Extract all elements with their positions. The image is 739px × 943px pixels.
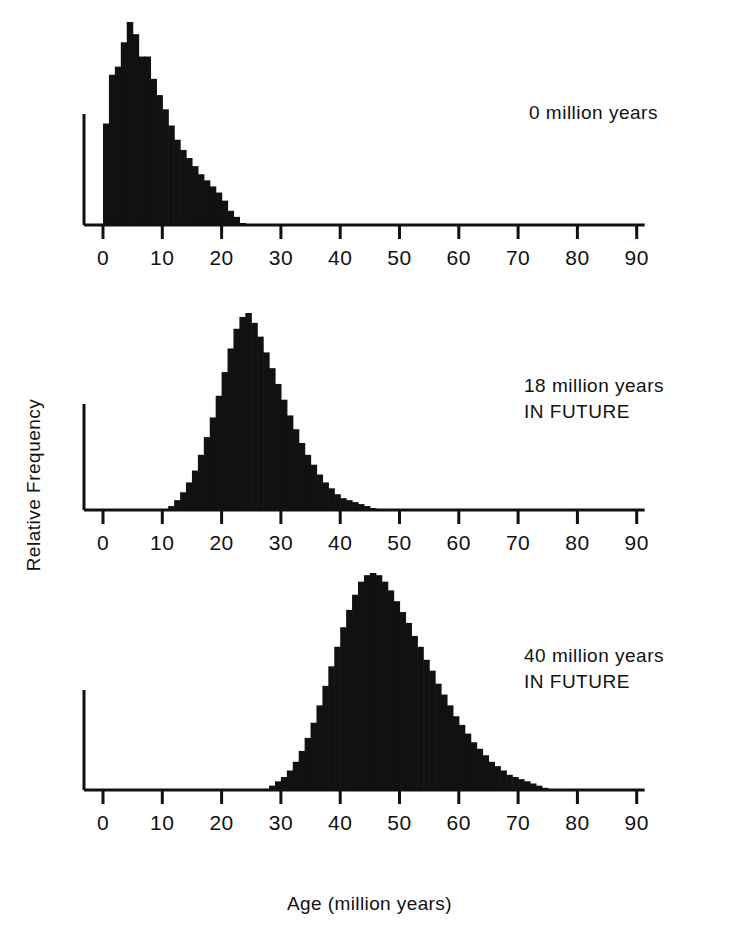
histogram-bar	[228, 348, 235, 510]
histogram-bar	[311, 723, 318, 790]
histogram-bar	[322, 686, 329, 790]
histogram-bar	[162, 109, 169, 225]
histogram-bar	[435, 684, 442, 790]
histogram-bar	[269, 368, 276, 510]
histogram-bar	[198, 455, 205, 510]
histogram-bar	[340, 498, 347, 510]
x-axis-tick-label: 20	[209, 811, 233, 834]
histogram-bar	[156, 95, 163, 225]
x-axis-tick-label: 10	[150, 246, 174, 269]
histogram-bar	[186, 482, 193, 510]
histogram-bar	[483, 755, 490, 790]
histogram-bar	[121, 42, 128, 225]
histogram-bar	[103, 124, 110, 226]
histogram-bar	[222, 201, 229, 225]
histogram-bar	[400, 612, 407, 790]
annotation-line-2: IN FUTURE	[524, 401, 630, 422]
histogram-bar	[192, 166, 199, 225]
histogram-bar	[441, 695, 448, 790]
histogram-bar	[299, 751, 306, 790]
x-axis-title: Age (million years)	[0, 893, 739, 915]
histogram-bar	[204, 437, 211, 510]
histogram-bar	[376, 575, 383, 790]
histogram-bar	[311, 465, 318, 510]
histogram-bar	[471, 742, 478, 790]
histogram-panel-1: 0102030405060708090	[0, 285, 739, 565]
x-axis-tick-label: 40	[328, 531, 352, 554]
histogram-bar	[305, 455, 312, 510]
histogram-bar	[459, 725, 466, 790]
histogram-bar	[180, 492, 187, 510]
histogram-bar	[281, 777, 288, 790]
x-axis-tick-label: 80	[565, 811, 589, 834]
histogram-bar	[180, 150, 187, 225]
annotation-line-2: IN FUTURE	[524, 671, 630, 692]
histogram-bar	[186, 158, 193, 225]
histogram-bar	[299, 443, 306, 510]
histogram-bar	[174, 140, 181, 225]
histogram-bar	[411, 636, 418, 790]
histogram-bar	[287, 415, 294, 510]
histogram-bar	[394, 601, 401, 790]
histogram-bar	[115, 67, 122, 225]
histogram-bar	[109, 75, 116, 225]
histogram-bar	[133, 34, 140, 225]
x-axis-tick-label: 60	[447, 811, 471, 834]
histogram-bar	[417, 647, 424, 790]
histogram-bar	[287, 770, 294, 790]
x-axis-tick-label: 50	[387, 531, 411, 554]
x-axis-tick-label: 10	[150, 531, 174, 554]
x-axis-tick-label: 50	[387, 246, 411, 269]
histogram-bar	[364, 575, 371, 790]
panel-18-million-years: 0102030405060708090	[0, 285, 739, 565]
histogram-bar	[334, 494, 341, 510]
histogram-bar	[518, 779, 525, 790]
histogram-bar	[494, 766, 501, 790]
x-axis-tick-label: 20	[209, 531, 233, 554]
histogram-bar	[210, 417, 217, 510]
x-axis-tick-label: 0	[97, 246, 109, 269]
histogram-bar	[423, 660, 430, 790]
x-axis-tick-label: 90	[625, 246, 649, 269]
histogram-bar	[275, 384, 282, 510]
x-axis-tick-label: 70	[506, 811, 530, 834]
x-axis-tick-label: 70	[506, 531, 530, 554]
histogram-bar	[127, 22, 134, 225]
x-axis-tick-label: 40	[328, 246, 352, 269]
histogram-bar	[506, 775, 513, 790]
histogram-bar	[251, 323, 258, 510]
histogram-panel-2: 0102030405060708090	[0, 565, 739, 865]
histogram-bar	[388, 590, 395, 790]
histogram-bar	[328, 666, 335, 790]
annotation-line-1: 40 million years	[524, 645, 664, 666]
histogram-bar	[257, 337, 264, 510]
histogram-bar	[233, 329, 240, 510]
histogram-bar	[210, 186, 217, 225]
x-axis-tick-label: 10	[150, 811, 174, 834]
panel-40-million-years: 0102030405060708090	[0, 565, 739, 865]
histogram-bar	[145, 57, 152, 225]
x-axis-tick-label: 70	[506, 246, 530, 269]
histogram-bar	[204, 180, 211, 225]
histogram-bar	[139, 57, 146, 225]
histogram-bar	[316, 705, 323, 790]
histogram-bar	[293, 762, 300, 790]
histogram-bar	[222, 372, 229, 510]
histogram-bar	[370, 573, 377, 790]
histogram-bar	[263, 352, 270, 510]
histogram-bars	[168, 313, 376, 510]
annotation-panel-1: 18 million yearsIN FUTURE	[524, 373, 664, 424]
x-axis-tick-label: 20	[209, 246, 233, 269]
histogram-bar	[382, 582, 389, 790]
x-axis-tick-label: 90	[625, 811, 649, 834]
histogram-bar	[500, 770, 507, 790]
histogram-bar	[245, 313, 252, 510]
histogram-bar	[216, 396, 223, 510]
histogram-bars	[103, 22, 246, 225]
histogram-bar	[239, 317, 246, 510]
histogram-bar	[305, 738, 312, 790]
x-axis-tick-label: 30	[269, 246, 293, 269]
panel-0-million-years: 0102030405060708090	[0, 0, 739, 285]
histogram-bar	[465, 734, 472, 790]
histogram-bar	[168, 126, 175, 225]
